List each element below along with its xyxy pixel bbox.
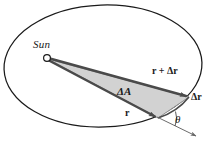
delta-area-label: ΔA (117, 86, 131, 97)
sun-label: Sun (33, 39, 50, 50)
r-plus-delta-r-label: r + Δr (152, 66, 178, 76)
r-label: r (125, 108, 129, 118)
orbit-sector-diagram: Sun r + Δr Δr ΔA r θ (0, 0, 211, 142)
delta-r-label: Δr (191, 92, 202, 102)
sun-marker-icon (44, 55, 51, 62)
theta-label: θ (175, 114, 180, 125)
